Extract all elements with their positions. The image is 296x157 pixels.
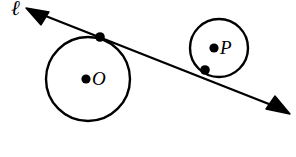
center-p-dot: [209, 43, 218, 52]
circle-o-center-label: O: [92, 69, 106, 88]
center-o-dot: [81, 74, 90, 83]
line-l-arrowhead-right: [266, 96, 290, 114]
line-l-arrowhead-left: [26, 8, 49, 25]
line-label-l: ℓ: [11, 0, 20, 19]
tangent-point-o-dot: [95, 32, 105, 42]
geometry-canvas: [0, 0, 296, 157]
line-l-group: [26, 8, 290, 114]
tangent-point-p-dot: [200, 65, 210, 75]
circle-p-center-label: P: [220, 38, 232, 57]
circle-p: [190, 19, 248, 77]
line-l: [38, 13, 279, 108]
geometry-figure: ℓ O P: [0, 0, 296, 157]
